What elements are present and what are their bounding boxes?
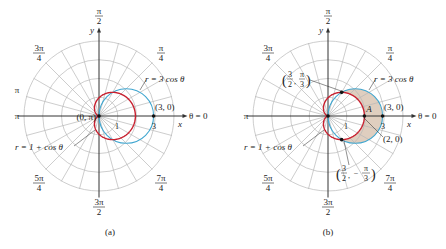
point-label-2-0: (2, 0)	[383, 134, 403, 144]
point-lower-intersection	[340, 138, 344, 142]
y-axis-label: y	[89, 25, 94, 35]
svg-text:,: ,	[348, 171, 350, 180]
grid-ray	[308, 116, 328, 189]
label-7pi-over-4-den: 4	[159, 183, 164, 193]
svg-text:): )	[306, 73, 311, 89]
label-5pi-over-4-den: 4	[37, 183, 42, 193]
lower-sign: −	[354, 169, 359, 178]
label-5pi-over-4-num: 5π	[34, 173, 44, 183]
x-axis-label: x	[177, 119, 182, 129]
grid-ray	[328, 43, 348, 116]
x-arrow-icon	[412, 114, 417, 118]
label-3pi-over-4-num: 3π	[34, 43, 44, 53]
point-label-3-0: (3, 0)	[155, 102, 175, 112]
label-pi-over-2-den: 2	[326, 16, 331, 26]
y-arrow-icon	[97, 27, 101, 32]
curve-label-cardioid: r = 1 + cos θ	[15, 142, 63, 152]
label-pi: π	[15, 111, 20, 121]
label-5pi-over-4-num: 5π	[263, 173, 273, 183]
label-pi-over-4-num: π	[159, 43, 164, 53]
upper-r-den: 2	[288, 80, 292, 89]
caption-a: (a)	[105, 227, 115, 237]
upper-ang-den: 3	[300, 80, 304, 89]
grid-ray	[255, 96, 328, 116]
grid-ray	[99, 51, 137, 116]
label-3pi-over-4-num: 3π	[263, 43, 273, 53]
label-theta-zero: θ = 0	[189, 111, 208, 121]
label-pi: π	[244, 111, 249, 121]
svg-text:,: ,	[294, 77, 296, 86]
y-arrow-icon	[326, 27, 330, 32]
point-label-upper: ( 3 2 , π 3 )	[282, 70, 311, 89]
label-7pi-over-4-num: 7π	[156, 173, 166, 183]
grid-ray	[308, 43, 328, 116]
label-pi-over-4-den: 4	[388, 53, 393, 63]
label-pi-over-2-num: π	[326, 6, 331, 16]
grid-ray	[99, 116, 152, 169]
x-axis-label: x	[406, 119, 411, 129]
svg-text:(: (	[336, 167, 341, 183]
label-3pi-over-4-den: 4	[266, 53, 271, 63]
grid-ray	[99, 63, 152, 116]
pole-point	[326, 114, 330, 118]
point-label-3-0: (3, 0)	[384, 102, 404, 112]
grid-ray	[290, 116, 328, 181]
grid-ray	[99, 43, 119, 116]
tick-1: 1	[344, 122, 348, 131]
upper-r-num: 3	[288, 70, 292, 79]
grid-ray	[79, 43, 99, 116]
region-label-A: A	[365, 104, 372, 114]
grid-ray	[61, 116, 99, 181]
figure-a-labels: π 2 y π 4 3π 4 π π θ = 0 x 5π 4 7π 4 3π …	[15, 6, 208, 237]
upper-ang-num: π	[300, 70, 304, 79]
tick-1: 1	[115, 122, 119, 131]
curve-label-cardioid: r = 1 + cos θ	[244, 142, 292, 152]
lower-r-num: 3	[342, 164, 346, 173]
y-axis-label: y	[318, 25, 323, 35]
grid-ray	[328, 51, 366, 116]
point-3-0	[152, 114, 156, 118]
tick-3: 3	[381, 122, 385, 131]
point-label-pole: (0, π)	[76, 112, 96, 122]
caption-b: (b)	[323, 227, 334, 237]
label-theta-zero: θ = 0	[418, 111, 437, 121]
label-pi-over-4-num: π	[388, 43, 393, 53]
label-3pi-over-4-den: 4	[37, 53, 42, 63]
grid-ray	[61, 51, 99, 116]
figure-b-labels: π 2 y π 4 3π 4 π θ = 0 x 5π 4 7π 4 3π 2 …	[244, 6, 437, 237]
lower-ang-num: π	[364, 164, 368, 173]
x-arrow-icon	[183, 114, 188, 118]
svg-text:(: (	[282, 73, 287, 89]
label-5pi-over-4-den: 4	[266, 183, 271, 193]
curve-label-circle: r = 3 cos θ	[374, 74, 414, 84]
point-label-lower: ( 3 2 , − π 3 )	[336, 164, 376, 183]
label-pi-over-2-den: 2	[97, 16, 102, 26]
point-2-0	[363, 114, 367, 118]
curve-label-circle: r = 3 cos θ	[145, 74, 185, 84]
grid-ray	[46, 63, 99, 116]
label-pi-over-4-den: 4	[159, 53, 164, 63]
grid-ray	[79, 116, 99, 189]
label-7pi-over-4-num: 7π	[385, 173, 395, 183]
grid-ray	[34, 78, 99, 116]
lower-r-den: 2	[342, 174, 346, 183]
label-3pi-over-2-num: 3π	[94, 197, 104, 207]
label-3pi-over-2-den: 2	[326, 207, 331, 217]
tick-3: 3	[152, 122, 156, 131]
point-3-0	[381, 114, 385, 118]
label-3pi-over-2-num: 3π	[323, 197, 333, 207]
label-7pi-over-4-den: 4	[388, 183, 393, 193]
pole-point	[97, 114, 101, 118]
label-pi-over-2-num: π	[97, 6, 102, 16]
grid-ray	[255, 116, 328, 136]
polar-diagram: π 2 y π 4 3π 4 π π θ = 0 x 5π 4 7π 4 3π …	[0, 0, 446, 249]
svg-text:): )	[371, 167, 376, 183]
label-3pi-over-2-den: 2	[97, 207, 102, 217]
lower-ang-den: 3	[364, 174, 368, 183]
label-pi-upper: π	[15, 85, 20, 95]
